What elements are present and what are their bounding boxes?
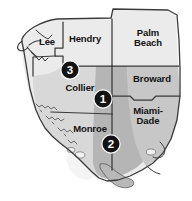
south-florida-county-map: Lee Hendry Palm Beach Broward Miami- Dad… xyxy=(0,0,192,201)
shaded-region-dark xyxy=(93,66,180,179)
map-marker-2[interactable]: 2 xyxy=(103,136,120,153)
key-islet-c xyxy=(146,149,155,155)
map-marker-3[interactable]: 3 xyxy=(62,62,79,79)
map-marker-1[interactable]: 1 xyxy=(95,91,112,108)
